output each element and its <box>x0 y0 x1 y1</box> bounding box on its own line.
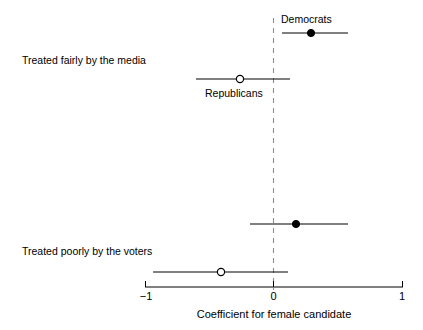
group-label-treated-fairly-media: Treated fairly by the media <box>22 55 146 66</box>
group-label-treated-poorly-voters: Treated poorly by the voters <box>22 246 152 257</box>
x-tick-label-pos1: 1 <box>399 291 405 302</box>
point-estimate-open-marker <box>236 75 243 82</box>
point-estimate-filled-marker <box>292 220 299 227</box>
plot-canvas <box>0 0 423 330</box>
series-annotation-republicans: Republicans <box>205 88 263 99</box>
point-estimate-filled-marker <box>307 29 314 36</box>
point-estimate-open-marker <box>217 268 224 275</box>
x-tick-label-zero: 0 <box>270 291 276 302</box>
coefficient-plot-figure: Treated fairly by the media Treated poor… <box>0 0 423 330</box>
x-axis <box>145 281 403 287</box>
estimate-row-democrats-media <box>282 29 348 36</box>
x-tick-label-neg1: −1 <box>140 291 153 302</box>
estimate-row-democrats-voters <box>250 220 348 227</box>
estimate-row-republicans-voters <box>153 268 288 275</box>
estimate-row-republicans-media <box>196 75 290 82</box>
x-axis-title: Coefficient for female candidate <box>197 309 352 320</box>
series-annotation-democrats: Democrats <box>281 14 332 25</box>
